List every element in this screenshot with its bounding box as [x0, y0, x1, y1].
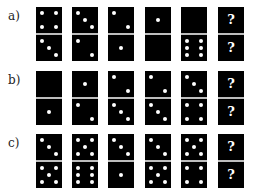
pip-icon — [199, 152, 203, 156]
domino-divider — [145, 160, 171, 162]
pip-icon — [199, 138, 203, 142]
domino-top-half — [108, 134, 134, 160]
pip-icon — [76, 103, 80, 107]
pip-icon — [90, 166, 94, 170]
domino — [181, 71, 207, 125]
domino-bottom-half: ? — [218, 99, 244, 125]
pip-icon — [163, 89, 167, 93]
pip-icon — [185, 53, 189, 57]
pip-icon — [90, 138, 94, 142]
domino-top-half — [36, 7, 62, 33]
pip-icon — [83, 18, 87, 22]
domino — [72, 134, 98, 188]
unknown-domino: ?? — [218, 134, 244, 188]
domino-top-half — [145, 71, 171, 97]
pip-icon — [112, 11, 116, 15]
domino-top-half: ? — [218, 134, 244, 160]
pip-icon — [149, 103, 153, 107]
pip-icon — [90, 152, 94, 156]
domino — [108, 71, 134, 125]
domino-divider — [145, 33, 171, 35]
pip-icon — [112, 138, 116, 142]
pip-icon — [47, 46, 51, 50]
unknown-domino: ?? — [218, 7, 244, 61]
domino-divider — [36, 160, 62, 162]
domino-bottom-half — [36, 35, 62, 61]
pip-icon — [192, 145, 196, 149]
pip-icon — [47, 173, 51, 177]
domino-bottom-half — [36, 99, 62, 125]
pip-icon — [163, 166, 167, 170]
pip-icon — [126, 117, 130, 121]
domino — [36, 71, 62, 125]
domino-divider — [181, 97, 207, 99]
pip-icon — [54, 166, 58, 170]
pip-icon — [199, 117, 203, 121]
question-mark: ? — [218, 71, 244, 97]
domino-top-half — [181, 134, 207, 160]
pip-icon — [119, 46, 123, 50]
pip-icon — [83, 145, 87, 149]
pip-icon — [185, 46, 189, 50]
pip-icon — [54, 11, 58, 15]
row-label: a) — [8, 9, 20, 23]
domino — [145, 7, 171, 61]
pip-icon — [149, 138, 153, 142]
pip-icon — [192, 82, 196, 86]
pip-icon — [76, 152, 80, 156]
pip-icon — [90, 180, 94, 184]
pip-icon — [199, 53, 203, 57]
pip-icon — [185, 75, 189, 79]
domino-divider — [72, 160, 98, 162]
pip-icon — [199, 180, 203, 184]
domino-top-half: ? — [218, 7, 244, 33]
question-mark: ? — [218, 35, 244, 61]
question-mark: ? — [218, 162, 244, 188]
domino-bottom-half — [108, 99, 134, 125]
domino — [72, 7, 98, 61]
pip-icon — [149, 180, 153, 184]
domino-top-half — [108, 71, 134, 97]
domino-divider — [145, 97, 171, 99]
question-mark: ? — [218, 99, 244, 125]
pip-icon — [185, 103, 189, 107]
domino-divider — [181, 160, 207, 162]
pip-icon — [90, 173, 94, 177]
domino-bottom-half — [36, 162, 62, 188]
pip-icon — [76, 138, 80, 142]
pip-icon — [156, 173, 160, 177]
domino-divider — [108, 160, 134, 162]
pip-icon — [163, 152, 167, 156]
domino-divider — [108, 97, 134, 99]
pip-icon — [163, 180, 167, 184]
pip-icon — [54, 180, 58, 184]
pip-icon — [76, 173, 80, 177]
domino-bottom-half — [181, 35, 207, 61]
domino-divider — [181, 33, 207, 35]
domino-divider — [108, 33, 134, 35]
row-label: c) — [8, 136, 19, 150]
pip-icon — [90, 117, 94, 121]
pip-icon — [40, 138, 44, 142]
domino-bottom-half: ? — [218, 35, 244, 61]
pip-icon — [54, 25, 58, 29]
domino-top-half — [36, 134, 62, 160]
domino-bottom-half — [145, 35, 171, 61]
pip-icon — [119, 145, 123, 149]
pip-icon — [76, 166, 80, 170]
domino-top-half — [181, 71, 207, 97]
pip-icon — [112, 103, 116, 107]
domino — [108, 7, 134, 61]
pip-icon — [185, 39, 189, 43]
pip-icon — [156, 18, 160, 22]
pip-icon — [119, 110, 123, 114]
pip-icon — [40, 25, 44, 29]
domino-divider — [218, 97, 244, 99]
domino — [181, 7, 207, 61]
domino-bottom-half — [72, 35, 98, 61]
pip-icon — [76, 11, 80, 15]
pip-icon — [40, 11, 44, 15]
domino-divider — [36, 33, 62, 35]
pip-icon — [54, 152, 58, 156]
domino — [72, 71, 98, 125]
